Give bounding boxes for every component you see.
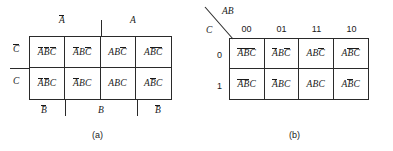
map-b-cell-2: ABC <box>299 39 334 69</box>
map-a-caption: (a) <box>92 130 103 140</box>
minterm-not-a-not-b-c: ABC <box>237 79 256 90</box>
map-b-col-header-1: 01 <box>264 25 299 34</box>
map-a-top-label-not-a: A <box>59 15 65 26</box>
map-a-row-label-c: C <box>13 76 19 87</box>
map-b-cell-1: ABC <box>265 39 300 69</box>
map-b-row-header-0: 0 <box>215 51 224 60</box>
minterm-a-b-c: ABC <box>108 78 127 89</box>
map-b-col-header-3: 10 <box>334 25 369 34</box>
map-b-cell-0: ABC <box>230 39 265 69</box>
map-a-cell-3: ABC <box>136 37 171 68</box>
minterm-a-not-b-not-c: ABC <box>144 47 163 58</box>
map-a-bottom-divider-tick-right <box>137 100 138 116</box>
karnaugh-map-b: AB C 00 01 11 10 0 1 ABC ABC ABC ABC ABC… <box>196 0 393 151</box>
minterm-not-a-b-c: ABC <box>73 78 92 89</box>
map-a-cell-5: ABC <box>65 68 100 99</box>
karnaugh-map-a: A A C C ABC ABC ABC ABC ABC ABC ABC ABC … <box>0 0 196 151</box>
map-b-caption: (b) <box>289 130 300 140</box>
karnaugh-map-figure: A A C C ABC ABC ABC ABC ABC ABC ABC ABC … <box>0 0 393 151</box>
minterm-a-b-not-c: ABC <box>306 48 325 59</box>
map-a-cell-0: ABC <box>30 37 65 68</box>
map-b-cell-7: ABC <box>334 69 369 99</box>
map-a-row-divider-tick <box>10 68 29 69</box>
minterm-a-not-b-c: ABC <box>341 79 360 90</box>
minterm-not-a-not-b-not-c: ABC <box>237 48 256 59</box>
map-a-bottom-label-not-b-right: B <box>155 105 161 116</box>
map-a-cell-1: ABC <box>65 37 100 68</box>
map-b-cell-4: ABC <box>230 69 265 99</box>
map-a-top-label-a: A <box>130 15 136 26</box>
minterm-not-a-not-b-not-c: ABC <box>38 47 57 58</box>
map-a-cell-7: ABC <box>136 68 171 99</box>
map-a-cell-2: ABC <box>101 37 136 68</box>
map-b-col-header-2: 11 <box>299 25 334 34</box>
map-b-cell-5: ABC <box>265 69 300 99</box>
map-b-cell-6: ABC <box>299 69 334 99</box>
map-b-cell-3: ABC <box>334 39 369 69</box>
minterm-a-not-b-c: ABC <box>144 78 163 89</box>
map-a-cell-4: ABC <box>30 68 65 99</box>
map-a-bottom-label-not-b-left: B <box>41 105 47 116</box>
minterm-not-a-b-not-c: ABC <box>73 47 92 58</box>
map-a-top-divider-tick <box>101 20 102 36</box>
minterm-a-b-c: ABC <box>306 79 325 90</box>
corner-label-c: C <box>206 26 212 36</box>
map-a-cell-6: ABC <box>101 68 136 99</box>
map-a-bottom-divider-tick-left <box>65 100 66 116</box>
minterm-not-a-b-not-c: ABC <box>272 48 291 59</box>
corner-label-ab: AB <box>222 7 234 17</box>
minterm-a-not-b-not-c: ABC <box>341 48 360 59</box>
map-a-bottom-label-b: B <box>98 105 104 116</box>
map-b-col-header-0: 00 <box>229 25 264 34</box>
minterm-not-a-not-b-c: ABC <box>38 78 57 89</box>
map-a-row-label-not-c: C <box>13 44 19 55</box>
map-a-grid: ABC ABC ABC ABC ABC ABC ABC ABC <box>29 36 172 100</box>
map-b-grid: ABC ABC ABC ABC ABC ABC ABC ABC <box>229 38 369 100</box>
minterm-not-a-b-c: ABC <box>272 79 291 90</box>
minterm-a-b-not-c: ABC <box>108 47 127 58</box>
map-b-row-header-1: 1 <box>215 82 224 91</box>
